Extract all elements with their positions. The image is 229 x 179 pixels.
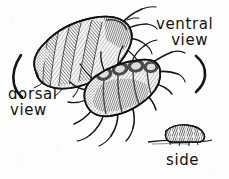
label-ventral-line2: view — [166, 32, 213, 48]
label-side-view: side — [166, 152, 199, 168]
side-specimen — [148, 120, 212, 146]
label-ventral-view: ventral view — [156, 16, 213, 48]
illustration-figure: dorsal view ventral view side — [0, 0, 229, 179]
right-bracket — [196, 56, 205, 92]
label-side-text: side — [166, 151, 199, 169]
label-dorsal-view: dorsal view — [8, 86, 58, 118]
label-dorsal-line2: view — [10, 102, 58, 118]
